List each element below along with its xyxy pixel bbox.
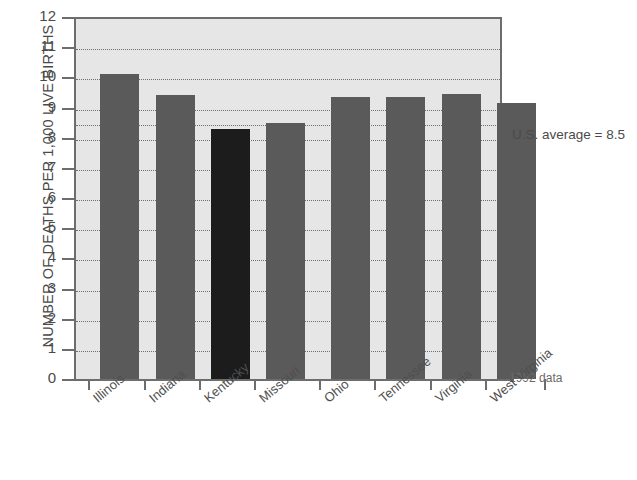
y-axis-tick <box>62 258 74 260</box>
bar-indiana <box>156 95 195 379</box>
y-axis-tick <box>62 108 74 110</box>
x-axis-tick <box>430 379 432 390</box>
y-axis-tick-label: 12 <box>6 7 56 24</box>
x-axis-tick <box>88 379 90 390</box>
bar-kentucky <box>211 129 250 379</box>
x-axis-tick <box>144 379 146 390</box>
gridline <box>76 79 500 80</box>
y-axis-tick-label: 1 <box>6 339 56 356</box>
y-axis-line <box>74 17 76 379</box>
y-axis-tick-label: 9 <box>6 98 56 115</box>
y-axis-tick <box>62 198 74 200</box>
y-axis-tick <box>62 17 74 19</box>
y-axis-tick <box>62 168 74 170</box>
x-axis-tick <box>199 379 201 390</box>
plot-area <box>74 17 502 379</box>
y-axis-tick-label: 4 <box>6 248 56 265</box>
y-axis-tick-label: 3 <box>6 279 56 296</box>
y-axis-tick-label: 5 <box>6 218 56 235</box>
us-average-note: U.S. average = 8.5 <box>512 127 625 142</box>
y-axis-tick-label: 0 <box>6 369 56 386</box>
bar-missouri <box>266 123 305 379</box>
y-axis-tick <box>62 319 74 321</box>
x-axis-tick <box>319 379 321 390</box>
y-axis-tick <box>62 289 74 291</box>
bar-tennessee <box>386 97 425 379</box>
infant-mortality-bar-chart: NUMBER OF DEATHS PER 1,000 LIVE BIRTHS U… <box>0 0 637 480</box>
y-axis-tick <box>62 138 74 140</box>
y-axis-tick-label: 6 <box>6 188 56 205</box>
x-axis-tick <box>254 379 256 390</box>
gridline <box>76 110 500 111</box>
y-axis-tick <box>62 47 74 49</box>
bar-west-virginia <box>497 103 536 379</box>
y-axis-tick-label: 11 <box>6 37 56 54</box>
y-axis-tick <box>62 379 74 381</box>
bar-virginia <box>442 94 481 379</box>
y-axis-tick-label: 7 <box>6 158 56 175</box>
y-axis-tick <box>62 349 74 351</box>
x-axis-tick <box>544 379 546 390</box>
y-axis-tick-label: 8 <box>6 128 56 145</box>
y-axis-tick <box>62 228 74 230</box>
x-axis-tick <box>485 379 487 390</box>
gridline <box>76 49 500 50</box>
bar-ohio <box>331 97 370 379</box>
y-axis-tick-label: 2 <box>6 309 56 326</box>
bar-illinois <box>100 74 139 379</box>
x-axis-tick <box>374 379 376 390</box>
y-axis-tick <box>62 77 74 79</box>
y-axis-tick-label: 10 <box>6 67 56 84</box>
